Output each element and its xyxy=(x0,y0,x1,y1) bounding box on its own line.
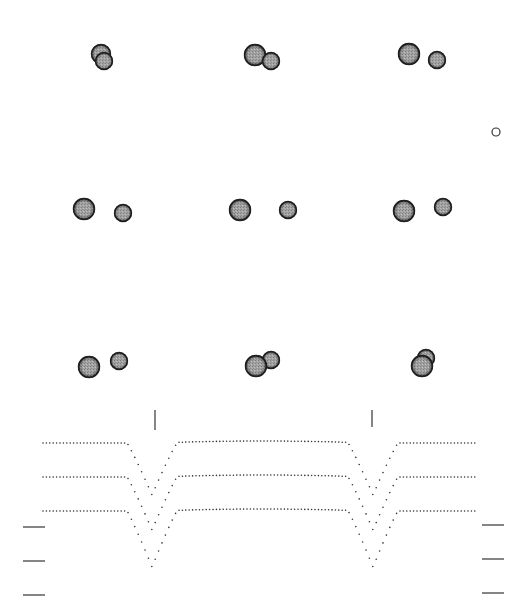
orbit-frame-8 xyxy=(245,351,280,377)
primary-star xyxy=(393,200,415,222)
secondary-star xyxy=(428,51,446,69)
primary-star xyxy=(229,199,251,221)
orbit-frame-5 xyxy=(229,199,297,221)
primary-star xyxy=(73,198,95,220)
orbit-frame-2 xyxy=(244,44,280,70)
primary-star xyxy=(411,355,433,377)
secondary-star xyxy=(95,52,113,70)
light-curve-3 xyxy=(42,508,475,567)
secondary-star xyxy=(262,52,280,70)
reference-marker xyxy=(492,128,500,136)
secondary-star xyxy=(110,352,128,370)
light-curves xyxy=(42,440,475,567)
small-ring-marker xyxy=(492,128,500,136)
orbit-phase-frames xyxy=(73,43,452,378)
primary-star xyxy=(245,355,267,377)
secondary-star xyxy=(279,201,297,219)
primary-star xyxy=(78,356,100,378)
orbit-frame-7 xyxy=(78,352,128,378)
orbit-frame-4 xyxy=(73,198,132,222)
orbit-frame-1 xyxy=(91,44,113,70)
axis-ticks xyxy=(23,410,504,595)
orbit-frame-9 xyxy=(411,349,435,377)
orbit-frame-3 xyxy=(398,43,446,69)
secondary-star xyxy=(114,204,132,222)
light-curve-1 xyxy=(42,440,475,495)
secondary-star xyxy=(434,198,452,216)
primary-star xyxy=(398,43,420,65)
binary-star-figure xyxy=(0,0,530,609)
orbit-frame-6 xyxy=(393,198,452,222)
light-curve-2 xyxy=(42,474,475,530)
